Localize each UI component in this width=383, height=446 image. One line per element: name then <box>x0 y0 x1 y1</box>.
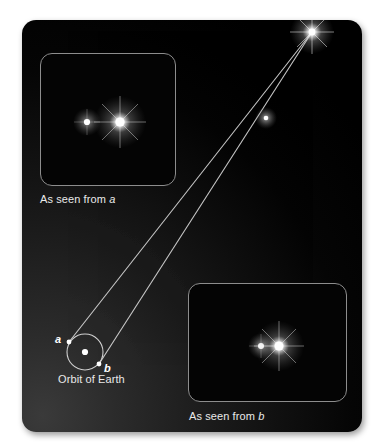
orbit-position-b-marker <box>97 362 102 367</box>
inset-panel-view-from-a <box>40 53 176 186</box>
caption-view-from-b: As seen from b <box>189 410 264 423</box>
caption-orbit-of-earth: Orbit of Earth <box>58 373 125 386</box>
caption-view-from-a: As seen from a <box>40 193 115 206</box>
inset-panel-view-from-b <box>188 283 347 402</box>
parallax-figure: As seen from a As seen from b Orbit of E… <box>0 0 383 446</box>
caption-b-point: b <box>258 410 264 422</box>
caption-b-prefix: As seen from <box>189 410 258 422</box>
sun-marker <box>82 349 88 355</box>
caption-a-point: a <box>109 193 115 205</box>
nearby-target-star <box>290 20 334 54</box>
orbit-position-a-marker <box>67 340 72 345</box>
distant-background-star <box>255 107 277 129</box>
inset-a-stars-svg <box>41 54 175 185</box>
inset-b-nearby-star <box>254 321 304 371</box>
inset-b-stars-svg <box>189 284 346 401</box>
sky-panel: As seen from a As seen from b Orbit of E… <box>22 20 362 432</box>
orbit-label-a: a <box>55 334 61 345</box>
inset-a-nearby-star <box>94 96 146 148</box>
caption-a-prefix: As seen from <box>40 193 109 205</box>
orbit-label-b: b <box>104 363 111 374</box>
